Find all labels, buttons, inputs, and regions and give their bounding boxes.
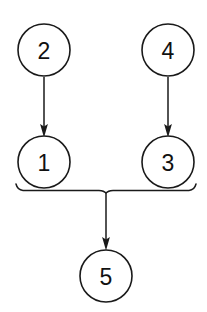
edge-2-to-1 — [40, 77, 48, 138]
node-2-label: 2 — [38, 38, 51, 64]
node-1[interactable]: 1 — [18, 136, 70, 188]
node-2[interactable]: 2 — [18, 24, 70, 76]
edge-bracket-to-5 — [102, 192, 110, 251]
node-1-label: 1 — [38, 150, 51, 176]
node-3[interactable]: 3 — [142, 136, 194, 188]
diagram-canvas: 2 4 1 3 5 — [0, 0, 207, 312]
node-graph: 2 4 1 3 5 — [0, 0, 207, 312]
node-4-label: 4 — [162, 38, 175, 64]
node-5[interactable]: 5 — [80, 250, 132, 302]
edge-4-to-3 — [164, 77, 172, 138]
node-4[interactable]: 4 — [142, 24, 194, 76]
node-3-label: 3 — [162, 150, 175, 176]
node-5-label: 5 — [100, 264, 113, 290]
